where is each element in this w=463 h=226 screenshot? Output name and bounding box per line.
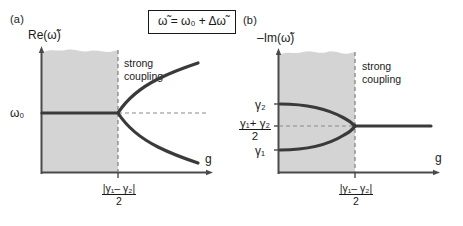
panel-b-y-axis-arrow — [276, 48, 281, 55]
panel-b-x-axis-arrow — [433, 170, 440, 175]
panel-a-y-axis-arrow — [39, 46, 44, 53]
panel-b-weak-region-shading — [279, 51, 355, 172]
panel-b: (b) –Im(ω̃) weak coupling strong couplin… — [232, 0, 463, 226]
figure-container: ω̃ = ω₀ + Δω̃ (a) Re(ω̃) weak coupling s… — [0, 0, 463, 226]
panel-a-x-axis-arrow — [206, 170, 213, 175]
panel-a-upper-branch-curve — [118, 63, 198, 113]
panel-a-plot — [0, 0, 232, 226]
panel-a-lower-branch-curve — [118, 113, 198, 163]
panel-b-plot — [232, 0, 463, 226]
panel-a-weak-region-shading — [42, 50, 118, 172]
panel-a: (a) Re(ω̃) weak coupling strong coupling… — [0, 0, 232, 226]
